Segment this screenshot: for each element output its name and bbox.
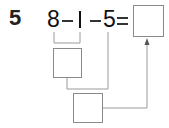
connector-step2-to-answer [103, 42, 147, 108]
connector-lines [0, 0, 169, 128]
connector-step1-to-5 [67, 32, 108, 89]
bracket-8-1 [54, 32, 80, 43]
arrow-up-icon [145, 38, 150, 45]
